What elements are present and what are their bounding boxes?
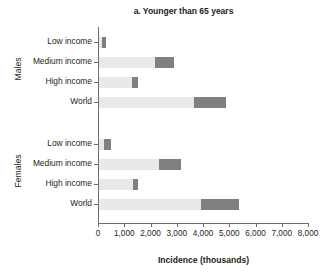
x-axis-ticklabel-1000: 1,000	[114, 229, 135, 238]
plot-area: 0 1,000 2,000 3,000 4,000 5,000 6,000 7,…	[98, 27, 308, 223]
bar-segment-light	[99, 199, 201, 210]
x-tick-8000	[308, 223, 309, 227]
bar-males-world	[99, 97, 226, 108]
x-axis-ticklabel-8000: 8,000	[298, 229, 319, 238]
bar-segment-dark	[201, 199, 239, 210]
y-tick-females-high-income	[94, 184, 98, 185]
chart-title: a. Younger than 65 years	[0, 6, 327, 16]
x-tick-5000	[229, 223, 230, 227]
x-axis-ticklabel-5000: 5,000	[219, 229, 240, 238]
x-axis-ticklabel-2000: 2,000	[140, 229, 161, 238]
x-axis-ticklabel-7000: 7,000	[272, 229, 293, 238]
bar-segment-dark	[133, 179, 138, 190]
x-axis-title: Incidence (thousands)	[98, 255, 309, 265]
x-axis-ticklabel-4000: 4,000	[193, 229, 214, 238]
x-axis-ticklabel-6000: 6,000	[245, 229, 266, 238]
x-tick-2000	[151, 223, 152, 227]
bar-segment-dark	[102, 37, 107, 48]
x-tick-6000	[256, 223, 257, 227]
y-tick-males-high-income	[94, 82, 98, 83]
bar-females-medium-income	[99, 159, 181, 170]
y-tick-females-medium-income	[94, 164, 98, 165]
x-tick-7000	[282, 223, 283, 227]
bar-segment-dark	[155, 57, 173, 68]
x-tick-3000	[177, 223, 178, 227]
y-tick-males-low-income	[94, 42, 98, 43]
bar-segment-light	[99, 57, 155, 68]
bar-segment-light	[99, 97, 194, 108]
bar-males-medium-income	[99, 57, 174, 68]
y-tick-females-low-income	[94, 144, 98, 145]
y-tick-females-world	[94, 204, 98, 205]
x-tick-4000	[203, 223, 204, 227]
x-axis-ticklabel-0: 0	[96, 229, 101, 238]
bar-segment-dark	[132, 77, 138, 88]
bar-segment-dark	[194, 97, 226, 108]
bar-females-world	[99, 199, 239, 210]
bar-segment-light	[99, 179, 133, 190]
bar-males-low-income	[99, 37, 106, 48]
group-label-females: Females	[13, 141, 23, 201]
y-tick-males-world	[94, 102, 98, 103]
bar-segment-dark	[104, 139, 111, 150]
bar-females-high-income	[99, 179, 138, 190]
bar-males-high-income	[99, 77, 138, 88]
x-tick-0	[98, 223, 99, 227]
group-label-males: Males	[13, 39, 23, 99]
chart-figure: a. Younger than 65 years Low income Medi…	[0, 0, 327, 275]
bar-segment-dark	[159, 159, 182, 170]
y-tick-males-medium-income	[94, 62, 98, 63]
bar-segment-light	[99, 159, 159, 170]
x-axis-ticklabel-3000: 3,000	[167, 229, 188, 238]
x-tick-1000	[124, 223, 125, 227]
bar-females-low-income	[99, 139, 111, 150]
bar-segment-light	[99, 77, 132, 88]
